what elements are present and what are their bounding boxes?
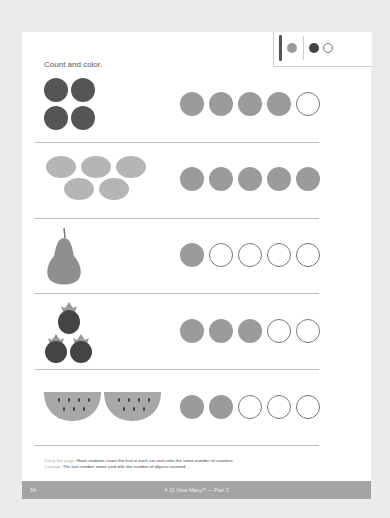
lemons-icon (44, 155, 154, 205)
counter[interactable] (180, 167, 204, 191)
concept-text: The last number name said tells the numb… (62, 464, 187, 469)
page-footer: 54 4-11 How Many? — Part 2 (22, 481, 371, 499)
watermelon-icon (44, 392, 164, 424)
teacher-note-concept: Concept: The last number name said tells… (44, 464, 186, 469)
crayon-icon (279, 35, 282, 61)
legend-divider (303, 36, 304, 60)
counter[interactable] (238, 167, 262, 191)
counter[interactable] (296, 92, 320, 116)
counter[interactable] (238, 92, 262, 116)
counter-row-5 (180, 395, 320, 419)
counter[interactable] (209, 243, 233, 267)
using-label: Using this page: (44, 458, 76, 463)
counter[interactable] (180, 395, 204, 419)
counter[interactable] (180, 319, 204, 343)
counter[interactable] (180, 92, 204, 116)
counter[interactable] (296, 319, 320, 343)
counter[interactable] (267, 243, 291, 267)
counter-row-1 (180, 92, 320, 116)
divider (35, 369, 319, 370)
counter[interactable] (209, 167, 233, 191)
counter[interactable] (267, 92, 291, 116)
counter[interactable] (296, 167, 320, 191)
concept-label: Concept: (44, 464, 62, 469)
lesson-title: 4-11 How Many? — Part 2 (22, 487, 371, 493)
divider (35, 293, 319, 294)
counter[interactable] (209, 319, 233, 343)
counter[interactable] (209, 92, 233, 116)
counter[interactable] (267, 167, 291, 191)
divider (35, 142, 319, 143)
strawberries-icon (44, 300, 94, 362)
counter[interactable] (238, 319, 262, 343)
counter[interactable] (238, 243, 262, 267)
counter[interactable] (296, 243, 320, 267)
using-text: Have students count the fruit in each se… (76, 458, 234, 463)
counter[interactable] (296, 395, 320, 419)
counter[interactable] (238, 395, 262, 419)
instruction-title: Count and color. (44, 60, 102, 69)
divider (35, 218, 319, 219)
dark-dot-icon (309, 43, 319, 53)
pear-icon (44, 226, 84, 286)
counter[interactable] (180, 243, 204, 267)
counter[interactable] (267, 319, 291, 343)
teacher-note-using: Using this page: Have students count the… (44, 458, 234, 463)
counter-row-3 (180, 243, 320, 267)
gray-dot-icon (287, 43, 297, 53)
plums-icon (44, 78, 98, 132)
counter-row-4 (180, 319, 320, 343)
divider (35, 445, 319, 446)
counter-row-2 (180, 167, 320, 191)
counter[interactable] (209, 395, 233, 419)
empty-dot-icon (323, 43, 333, 53)
counter[interactable] (267, 395, 291, 419)
